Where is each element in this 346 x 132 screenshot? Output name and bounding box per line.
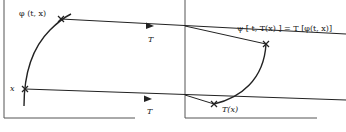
label-bottom-T: T: [147, 107, 153, 116]
diagram-canvas: φ (t, x) x T T ψ [ t, T(x) ] = T [φ(t, x…: [0, 0, 346, 132]
label-Tx: T(x): [222, 105, 238, 114]
label-top-T: T: [148, 35, 154, 44]
psi-trajectory-curve: [214, 44, 266, 104]
label-x: x: [10, 84, 15, 93]
label-phi: φ (t, x): [19, 9, 46, 18]
phi-trajectory-curve: [24, 14, 71, 106]
bottom-mapping-segment-right: [185, 95, 214, 104]
label-equation: ψ [ t, T(x) ] = T [φ(t, x)]: [237, 24, 332, 33]
bottom-arrowhead-icon: [144, 96, 152, 103]
